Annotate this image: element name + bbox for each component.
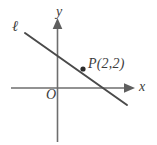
line-ell-label: ℓ (12, 19, 18, 34)
y-axis-label: y (56, 5, 62, 19)
figure-canvas (0, 0, 157, 145)
point-p-marker (80, 66, 85, 71)
y-axis-arrowhead-icon (53, 18, 63, 29)
coordinate-plane-figure: y x O ℓ P(2,2) (0, 0, 157, 145)
x-axis-label: x (139, 80, 145, 94)
x-axis-arrowhead-icon (124, 83, 135, 93)
point-p-label: P(2,2) (88, 57, 125, 71)
origin-label: O (46, 88, 56, 102)
